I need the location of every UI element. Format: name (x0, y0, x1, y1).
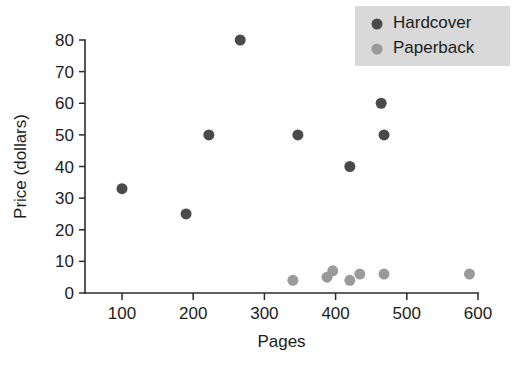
y-tick-label: 70 (55, 63, 74, 82)
y-tick-label: 30 (55, 189, 74, 208)
axes (79, 40, 478, 300)
scatter-chart: 01020304050607080100200300400500600Pages… (0, 0, 517, 373)
series-hardcover (117, 35, 390, 220)
legend: HardcoverPaperback (355, 6, 510, 66)
data-point (354, 269, 365, 280)
axis-labels: 01020304050607080100200300400500600Pages… (11, 31, 492, 351)
data-point (344, 275, 355, 286)
data-point (379, 269, 390, 280)
legend-label-paperback: Paperback (393, 38, 475, 57)
x-tick-label: 400 (321, 304, 349, 323)
x-tick-label: 300 (250, 304, 278, 323)
legend-marker-hardcover (372, 19, 383, 30)
plot-area: 01020304050607080100200300400500600Pages… (0, 0, 517, 373)
legend-marker-paperback (372, 44, 383, 55)
data-point (327, 265, 338, 276)
y-tick-label: 40 (55, 158, 74, 177)
y-tick-label: 50 (55, 126, 74, 145)
x-axis-title: Pages (257, 332, 305, 351)
data-point (379, 129, 390, 140)
data-point (464, 269, 475, 280)
data-point (203, 129, 214, 140)
x-tick-label: 600 (464, 304, 492, 323)
y-axis-title: Price (dollars) (11, 114, 30, 219)
legend-label-hardcover: Hardcover (393, 13, 472, 32)
data-point (376, 98, 387, 109)
y-tick-label: 60 (55, 94, 74, 113)
data-point (287, 275, 298, 286)
y-tick-label: 0 (65, 284, 74, 303)
series-paperback (287, 265, 475, 285)
data-point (181, 208, 192, 219)
data-point (344, 161, 355, 172)
x-tick-label: 500 (393, 304, 421, 323)
x-tick-label: 200 (179, 304, 207, 323)
data-points (117, 35, 475, 286)
y-tick-label: 80 (55, 31, 74, 50)
data-point (117, 183, 128, 194)
y-tick-label: 20 (55, 221, 74, 240)
data-point (235, 35, 246, 46)
data-point (292, 129, 303, 140)
x-tick-label: 100 (108, 304, 136, 323)
y-tick-label: 10 (55, 252, 74, 271)
